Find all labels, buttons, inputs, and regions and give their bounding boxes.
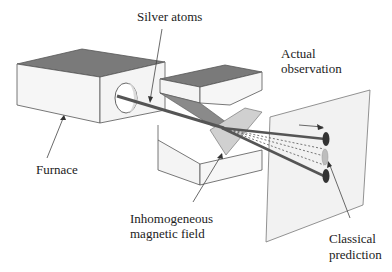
label-classical-line1: Classical — [329, 231, 376, 246]
label-furnace: Furnace — [36, 162, 78, 177]
label-magnet-line2: magnetic field — [130, 226, 205, 241]
actual-spot-upper — [323, 132, 330, 146]
stern-gerlach-diagram: Silver atoms Furnace Inhomogeneous magne… — [0, 0, 392, 272]
label-classical-line2: prediction — [329, 247, 382, 262]
label-actual-line2: observation — [281, 61, 342, 76]
label-silver-atoms: Silver atoms — [137, 9, 202, 24]
label-actual-line1: Actual — [281, 46, 316, 61]
detector-screen — [266, 90, 370, 242]
classical-spot — [322, 149, 328, 165]
label-magnet-line1: Inhomogeneous — [130, 211, 213, 226]
furnace-box — [17, 49, 165, 123]
actual-spot-lower — [323, 169, 330, 183]
